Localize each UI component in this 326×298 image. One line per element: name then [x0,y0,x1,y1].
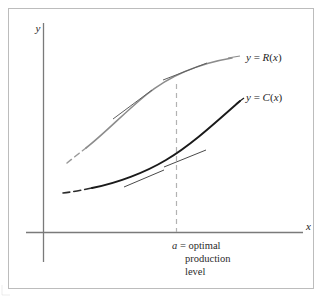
revenue-label-closeparen: ) [278,51,282,64]
economics-figure: y x y = R(x) y = C(x [0,0,326,298]
optimal-annotation-rest: = optimal [177,240,220,251]
optimal-annotation-line1: a = optimal [172,240,221,251]
x-axis-label: x [305,220,311,232]
cost-label-closeparen: ) [279,91,283,104]
optimal-annotation-line3: level [185,266,205,277]
cost-curve-label: y = C(x) [245,91,283,104]
y-axis-label: y [35,22,41,34]
optimal-annotation-line2: production [185,253,231,264]
revenue-label-equals: = [251,51,263,63]
revenue-cost-chart: y x y = R(x) y = C(x [0,0,326,298]
cost-label-equals: = [251,91,263,103]
revenue-curve-label: y = R(x) [245,51,282,64]
